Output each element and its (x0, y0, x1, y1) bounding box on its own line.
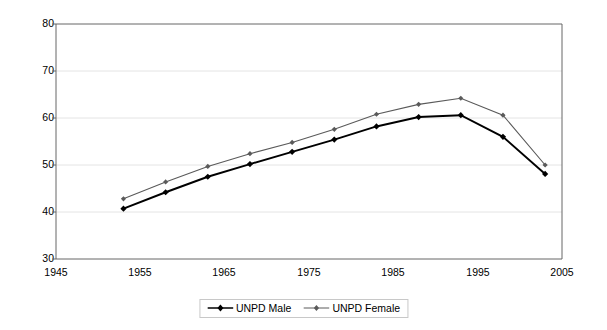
plot-area (0, 0, 607, 330)
legend-label-unpd-female: UNPD Female (332, 302, 400, 314)
gridlines (56, 71, 562, 212)
legend-label-unpd-male: UNPD Male (236, 302, 291, 314)
legend-entry-unpd-male: UNPD Male (207, 302, 291, 314)
legend-entry-unpd-female: UNPD Female (303, 302, 400, 314)
chart-legend: UNPD Male UNPD Female (199, 299, 408, 318)
plot-border (56, 24, 562, 259)
legend-swatch-female-icon (303, 303, 329, 313)
legend-swatch-male-icon (207, 303, 233, 313)
ytick-marks (52, 24, 56, 259)
chart-container: 80 70 60 50 40 30 1945 1955 1965 1975 19… (0, 0, 607, 330)
